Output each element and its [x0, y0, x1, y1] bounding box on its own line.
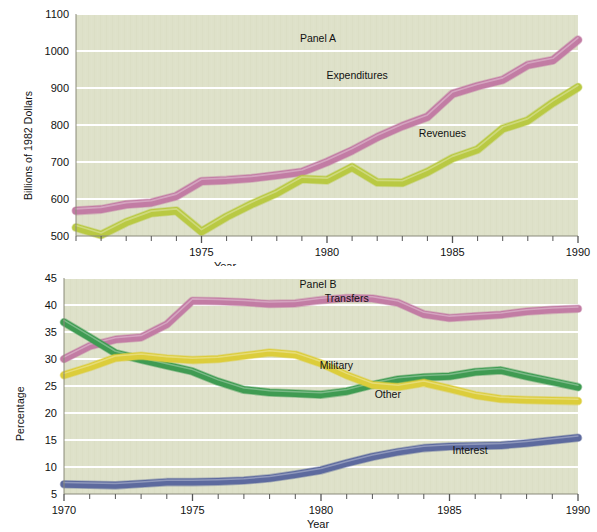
y-tick-label: 10: [45, 461, 57, 473]
panel-title: Panel B: [300, 278, 337, 290]
x-tick-label: 1970: [52, 504, 76, 516]
x-tick-label: 1985: [437, 504, 461, 516]
series-annotation-expenditures: Expenditures: [326, 69, 387, 81]
x-axis-label: Year: [307, 518, 330, 530]
y-tick-label: 25: [45, 380, 57, 392]
series-annotation-interest: Interest: [453, 444, 488, 456]
series-annotation-revenues: Revenues: [419, 127, 466, 139]
y-tick-label: 600: [51, 193, 69, 205]
x-tick-label: 1975: [189, 246, 213, 258]
y-tick-label: 1000: [45, 45, 69, 57]
panel-a-plot: 500600700800900100011001975198019851990Y…: [0, 0, 597, 266]
x-tick-label: 1980: [309, 504, 333, 516]
series-annotation-other: Other: [375, 388, 402, 400]
x-tick-label: 1990: [566, 504, 590, 516]
x-tick-label: 1975: [180, 504, 204, 516]
series-annotation-military: Military: [320, 359, 354, 371]
panel-b: Percentage 51015202530354045197019751980…: [0, 266, 597, 532]
panel-a: Billions of 1982 Dollars 500600700800900…: [0, 0, 597, 266]
y-tick-label: 1100: [45, 8, 69, 20]
y-tick-label: 45: [45, 272, 57, 284]
y-tick-label: 20: [45, 407, 57, 419]
y-tick-label: 5: [51, 488, 57, 500]
y-tick-label: 15: [45, 434, 57, 446]
y-tick-label: 30: [45, 353, 57, 365]
y-tick-label: 800: [51, 119, 69, 131]
y-tick-label: 500: [51, 230, 69, 242]
x-tick-label: 1980: [315, 246, 339, 258]
y-tick-label: 900: [51, 82, 69, 94]
y-tick-label: 40: [45, 299, 57, 311]
x-tick-label: 1990: [566, 246, 590, 258]
figure-government-budget: Billions of 1982 Dollars 500600700800900…: [0, 0, 597, 532]
x-tick-label: 1985: [440, 246, 464, 258]
series-annotation-transfers: Transfers: [325, 292, 369, 304]
panel-b-plot: 5101520253035404519701975198019851990Yea…: [0, 266, 597, 532]
y-tick-label: 700: [51, 156, 69, 168]
y-tick-label: 35: [45, 326, 57, 338]
panel-title: Panel A: [300, 32, 336, 44]
